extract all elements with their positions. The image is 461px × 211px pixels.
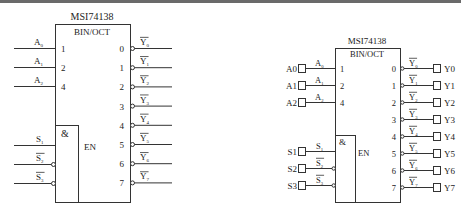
inversion-bubble (401, 101, 404, 104)
output-label-y3: Y3 (409, 109, 418, 120)
enable-label-s3-text: S3 (36, 172, 44, 183)
inversion-bubble (131, 123, 135, 127)
output-pin-number: 4 (120, 121, 125, 131)
input-port-terminal[interactable] (299, 99, 306, 107)
output-pin-number: 7 (392, 183, 396, 193)
output-pin-number: 2 (392, 98, 396, 108)
input-port-terminal[interactable] (299, 82, 306, 90)
input-label-a1-text: A1 (315, 75, 324, 86)
output-pin-number: 5 (120, 140, 125, 150)
output-label-y0-text: Y0 (140, 37, 150, 48)
input-pin-number: 1 (340, 64, 344, 74)
input-pin-number: 1 (61, 44, 66, 54)
enable-port-terminal[interactable] (299, 165, 306, 173)
output-label-y2: Y2 (140, 75, 150, 86)
output-pin-number: 1 (120, 63, 125, 73)
enable-port-terminal[interactable] (299, 182, 306, 190)
inversion-bubble (52, 163, 56, 167)
output-port-label-y7: Y7 (444, 183, 455, 193)
output-pin-number: 6 (392, 166, 396, 176)
output-pin-number: 0 (120, 44, 125, 54)
output-pin-number: 3 (120, 102, 125, 112)
output-label-y2: Y2 (409, 92, 418, 103)
output-port-terminal[interactable] (434, 167, 441, 175)
output-label-y1: Y1 (140, 56, 150, 67)
input-port-terminal[interactable] (299, 65, 306, 73)
output-label-y5: Y5 (409, 143, 418, 154)
input-port-label-a1: A1 (286, 81, 297, 91)
output-label-y3-text: Y3 (140, 95, 150, 106)
output-label-y7: Y7 (140, 171, 150, 182)
enable-label-s2: S2 (316, 158, 324, 169)
enable-label-s1-text: S1 (316, 141, 324, 152)
function-label: BIN/OCT (74, 27, 111, 37)
output-port-terminal[interactable] (434, 133, 441, 141)
output-port-terminal[interactable] (434, 82, 441, 90)
enable-label-s1-text: S1 (36, 134, 44, 145)
output-pin-number: 6 (120, 159, 125, 169)
inversion-bubble (131, 181, 135, 185)
output-port-label-y2: Y2 (444, 98, 455, 108)
enable-port-terminal[interactable] (299, 148, 306, 156)
enable-label-s2: S2 (36, 153, 45, 164)
input-port-label-a2: A2 (286, 98, 297, 108)
output-pin-number: 5 (392, 149, 396, 159)
input-label-a2: A2 (34, 75, 44, 86)
output-label-y6-text: Y6 (140, 152, 150, 163)
enable-port-label-s2: S2 (287, 164, 297, 174)
output-label-y6: Y6 (409, 160, 418, 171)
output-port-label-y3: Y3 (444, 115, 455, 125)
output-label-y1-text: Y1 (140, 56, 150, 67)
inversion-bubble (401, 186, 404, 189)
inversion-bubble (401, 169, 404, 172)
output-port-terminal[interactable] (434, 116, 441, 124)
output-label-y7-text: Y7 (140, 171, 150, 182)
output-port-terminal[interactable] (434, 150, 441, 158)
and-label: & (61, 128, 69, 139)
enable-label-s2-text: S2 (316, 158, 324, 169)
input-pin-number: 4 (61, 82, 66, 92)
inversion-bubble (131, 85, 135, 89)
chip-body (336, 49, 401, 203)
output-label-y0: Y0 (140, 37, 150, 48)
output-port-label-y6: Y6 (444, 166, 455, 176)
inversion-bubble (131, 66, 135, 70)
enable-label-s1: S1 (36, 134, 44, 145)
decoder-diagrams: MSI74138BIN/OCT&ENA01A12A24S1S2S30Y01Y12… (0, 0, 461, 211)
inversion-bubble (131, 104, 135, 108)
output-port-label-y0: Y0 (444, 64, 455, 74)
output-pin-number: 0 (392, 64, 396, 74)
output-pin-number: 3 (392, 115, 396, 125)
output-pin-number: 4 (392, 132, 397, 142)
output-pin-number: 1 (392, 81, 396, 91)
enable-label-s3: S3 (316, 175, 324, 186)
output-port-label-y4: Y4 (444, 132, 455, 142)
enable-label-s3-text: S3 (316, 175, 324, 186)
output-port-terminal[interactable] (434, 65, 441, 73)
input-label-a2-text: A2 (315, 92, 324, 103)
input-label-a1-text: A1 (34, 56, 44, 67)
input-pin-number: 4 (340, 98, 345, 108)
output-pin-number: 2 (120, 82, 125, 92)
input-pin-number: 2 (61, 63, 66, 73)
inversion-bubble (401, 118, 404, 121)
inversion-bubble (131, 162, 135, 166)
enable-label-s2-text: S2 (36, 153, 44, 164)
input-label-a1: A1 (34, 56, 44, 67)
input-label-a2: A2 (315, 92, 324, 103)
output-label-y6: Y6 (140, 152, 150, 163)
output-label-y4: Y4 (140, 114, 150, 125)
output-label-y4-text: Y4 (409, 126, 418, 137)
output-label-y5-text: Y5 (409, 143, 418, 154)
inversion-bubble (332, 184, 335, 187)
output-label-y6-text: Y6 (409, 160, 418, 171)
output-label-y7: Y7 (409, 177, 418, 188)
inversion-bubble (332, 167, 335, 170)
output-label-y1: Y1 (409, 75, 418, 86)
output-label-y3: Y3 (140, 95, 150, 106)
inversion-bubble (401, 67, 404, 70)
chip-name: MSI74138 (71, 11, 114, 22)
output-port-terminal[interactable] (434, 184, 441, 192)
inversion-bubble (131, 143, 135, 147)
output-port-terminal[interactable] (434, 99, 441, 107)
